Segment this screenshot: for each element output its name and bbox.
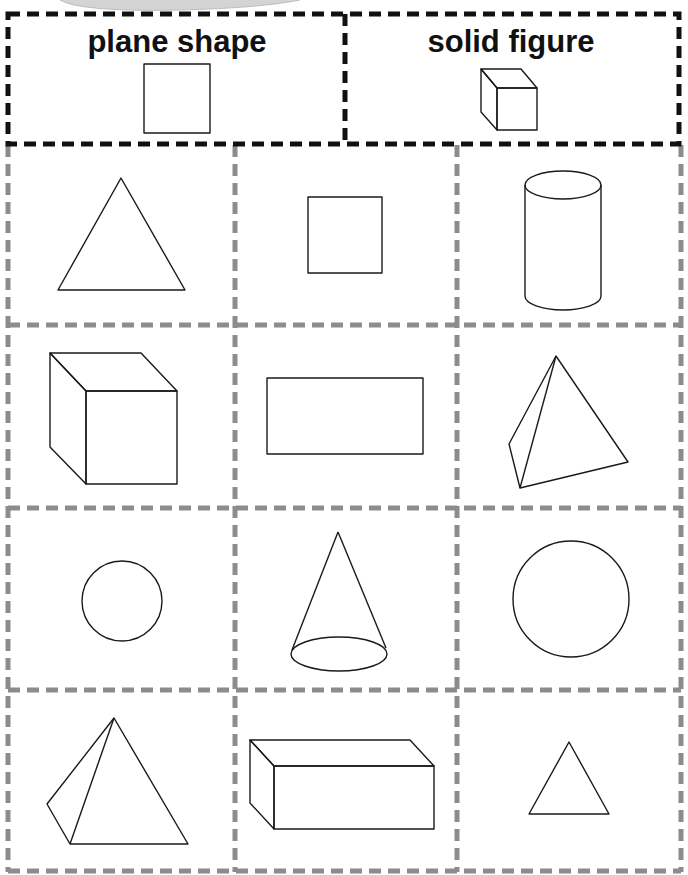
triangular-pyramid-shape-2[interactable] (47, 718, 188, 844)
circle-shape-large[interactable] (513, 541, 629, 657)
cone-shape[interactable] (291, 532, 387, 671)
worksheet: plane shape solid figure (0, 0, 688, 875)
circle-shape[interactable] (82, 561, 162, 641)
square-icon (144, 64, 210, 133)
square-shape[interactable] (308, 197, 382, 273)
decorative-arc (60, 0, 300, 10)
rectangular-prism-shape[interactable] (250, 740, 434, 829)
rectangle-shape[interactable] (267, 378, 423, 454)
triangular-pyramid-shape[interactable] (509, 356, 628, 488)
cube-shape[interactable] (50, 353, 177, 484)
triangle-shape[interactable] (58, 178, 185, 290)
cylinder-shape[interactable] (525, 171, 601, 310)
triangle-shape-small[interactable] (529, 742, 609, 814)
header-label-solid-figure: solid figure (427, 24, 594, 59)
header-label-plane-shape: plane shape (87, 24, 266, 59)
cube-icon (481, 69, 537, 130)
